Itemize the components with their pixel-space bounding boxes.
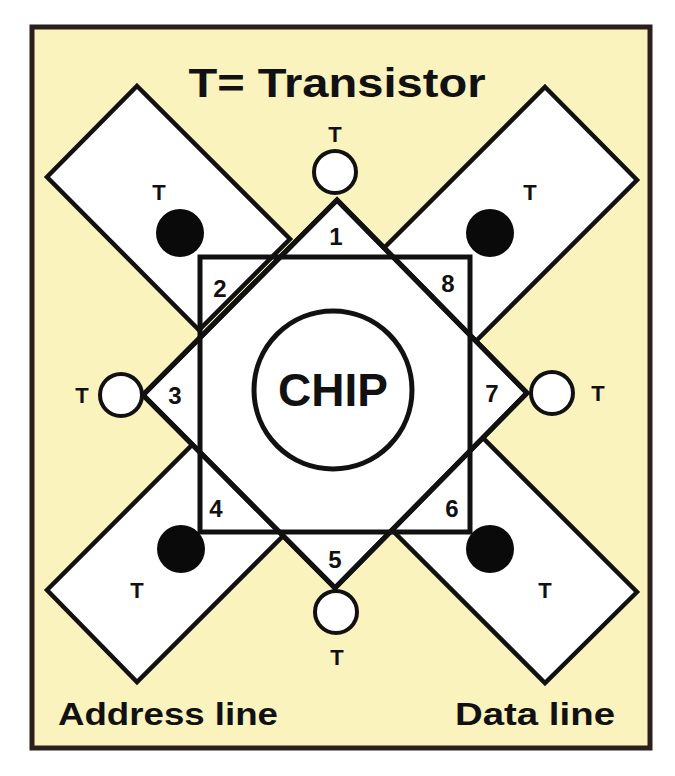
transistor-bottom-right-label: T xyxy=(538,578,552,603)
transistor-chip-diagram: CHIP T= Transistor T T T T T T T T 1 2 3… xyxy=(0,0,675,776)
transistor-left-icon xyxy=(100,374,142,416)
diagram-title: T= Transistor xyxy=(189,61,486,105)
region-7-label: 7 xyxy=(485,380,498,407)
region-2-label: 2 xyxy=(213,275,226,302)
diagram-canvas: CHIP T= Transistor T T T T T T T T 1 2 3… xyxy=(0,0,675,776)
transistor-right-label: T xyxy=(591,381,605,406)
transistor-bottom-left-icon xyxy=(157,525,205,573)
transistor-bottom-left-label: T xyxy=(130,578,144,603)
region-4-label: 4 xyxy=(209,495,223,522)
transistor-top-right-icon xyxy=(466,209,514,257)
transistor-left-label: T xyxy=(75,383,89,408)
transistor-bottom-icon xyxy=(315,591,357,633)
transistor-top-left-label: T xyxy=(152,180,166,205)
transistor-top-icon xyxy=(314,151,356,193)
data-line-label: Data line xyxy=(455,696,615,732)
transistor-bottom-label: T xyxy=(330,645,344,670)
transistor-top-left-icon xyxy=(156,209,204,257)
transistor-top-right-label: T xyxy=(523,180,537,205)
transistor-bottom-right-icon xyxy=(466,525,514,573)
address-line-label: Address line xyxy=(58,696,278,732)
region-8-label: 8 xyxy=(441,270,454,297)
region-3-label: 3 xyxy=(168,382,181,409)
region-6-label: 6 xyxy=(445,495,458,522)
transistor-top-label: T xyxy=(328,122,342,147)
region-5-label: 5 xyxy=(328,546,341,573)
transistor-right-icon xyxy=(531,372,573,414)
chip-label: CHIP xyxy=(278,364,388,416)
region-1-label: 1 xyxy=(329,223,342,250)
